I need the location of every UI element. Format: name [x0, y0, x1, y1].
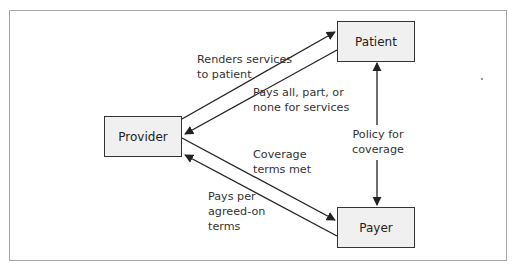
provider-node: Provider	[104, 116, 182, 157]
edge-label-renders-services: Renders services to patient	[197, 52, 292, 82]
edge-label-coverage-terms-met: Coverage terms met	[253, 147, 311, 177]
patient-node: Patient	[337, 21, 415, 62]
provider-label: Provider	[118, 130, 167, 144]
patient-label: Patient	[355, 35, 397, 49]
edge-label-pays-for-services: Pays all, part, or none for services	[253, 85, 349, 115]
payer-node: Payer	[337, 207, 415, 248]
payer-label: Payer	[359, 221, 392, 235]
edge-label-pays-per-terms: Pays per agreed-on terms	[208, 189, 265, 234]
edge-label-policy-for-coverage: Policy for coverage	[349, 127, 407, 157]
stray-dot	[481, 78, 483, 80]
